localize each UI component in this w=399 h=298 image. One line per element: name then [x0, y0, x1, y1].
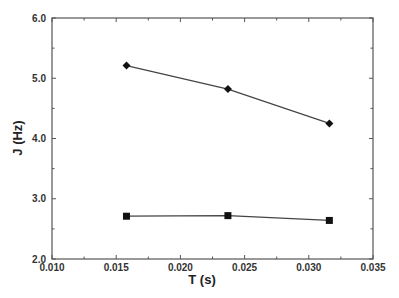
series-diamonds: [122, 62, 333, 128]
x-tick-label: 0.015: [104, 262, 129, 273]
diamond-marker: [122, 62, 130, 70]
tick-labels: 0.0100.0150.0200.0250.0300.0352.03.04.05…: [32, 13, 386, 274]
square-marker: [224, 212, 231, 219]
x-tick-label: 0.035: [360, 262, 385, 273]
x-tick-label: 0.030: [296, 262, 321, 273]
plot-frame: [52, 18, 373, 259]
data-series: [122, 62, 333, 224]
chart: 0.0100.0150.0200.0250.0300.0352.03.04.05…: [0, 0, 399, 298]
series-line: [126, 66, 329, 124]
x-tick-label: 0.025: [232, 262, 257, 273]
y-tick-label: 5.0: [32, 73, 46, 84]
plot-border: [52, 18, 373, 259]
y-tick-label: 6.0: [32, 13, 46, 24]
x-axis-label: T (s): [188, 272, 215, 287]
y-tick-label: 2.0: [32, 254, 46, 265]
series-squares: [123, 212, 333, 224]
axis-ticks: [52, 18, 373, 259]
diamond-marker: [224, 85, 232, 93]
y-axis-label: J (Hz): [10, 120, 25, 155]
y-tick-label: 4.0: [32, 133, 46, 144]
square-marker: [326, 217, 333, 224]
diamond-marker: [325, 119, 333, 127]
square-marker: [123, 213, 130, 220]
y-tick-label: 3.0: [32, 193, 46, 204]
